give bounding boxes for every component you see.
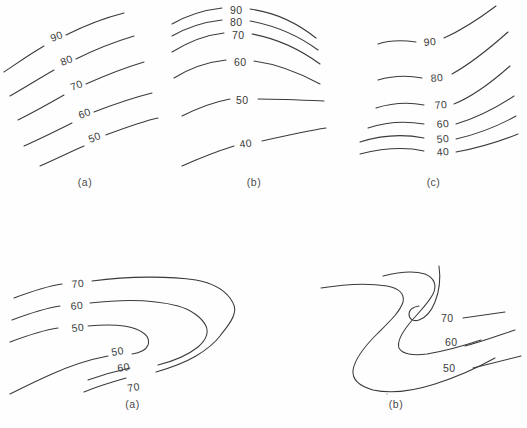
contour-line-50 — [321, 284, 495, 392]
contour-line-70 — [172, 33, 224, 52]
contour-panel-top-b: 90 80 70 60 50 40 — [168, 0, 340, 172]
contour-line-80-right — [452, 32, 508, 74]
contour-line-90-right — [66, 13, 124, 35]
contour-line-50-right — [456, 116, 516, 139]
contour-panel-bottom-a: 70 70 60 60 50 50 — [0, 246, 265, 394]
contour-line-60-right — [456, 96, 514, 124]
contour-panel-top-a: 90 80 70 60 50 — [0, 0, 170, 172]
panel-caption-bottom-a: (a) — [0, 398, 265, 410]
contour-label-80: 80 — [59, 52, 75, 68]
panel-caption-bottom-b: (b) — [265, 398, 527, 410]
contour-label-70-lower: 70 — [126, 380, 140, 394]
contour-line-70-tail — [463, 312, 505, 318]
contour-label-50: 50 — [436, 132, 449, 145]
contour-line-70 — [376, 103, 424, 108]
contour-label-70: 70 — [434, 98, 447, 111]
contour-label-90: 90 — [423, 35, 436, 48]
contour-line-40 — [360, 149, 424, 154]
contour-label-70: 70 — [232, 29, 244, 41]
contour-line-80 — [378, 76, 422, 80]
contour-line-50-right — [258, 99, 324, 101]
contour-line-90 — [172, 8, 222, 24]
contour-label-80: 80 — [230, 16, 242, 28]
contour-line-60-right — [254, 61, 320, 84]
contour-line-80-right — [76, 36, 134, 59]
contour-line-60 — [368, 122, 424, 128]
contour-label-40: 40 — [436, 145, 449, 158]
contour-label-60: 60 — [445, 336, 457, 348]
contour-label-70-upper: 70 — [71, 277, 85, 290]
contour-panel-bottom-b: 50 60 70 — [265, 246, 527, 394]
contour-label-50: 50 — [443, 362, 455, 374]
contour-label-90: 90 — [49, 28, 65, 44]
contour-line-60-tail — [465, 330, 515, 346]
contour-line-70 — [18, 95, 64, 120]
contour-label-70: 70 — [69, 77, 85, 93]
contour-line-70-right — [252, 34, 320, 64]
contour-line-90-right — [444, 6, 496, 38]
contour-line-90 — [378, 41, 416, 44]
contour-line-50 — [182, 99, 230, 116]
contour-label-60: 60 — [234, 56, 246, 68]
contour-label-60-upper: 60 — [70, 299, 84, 312]
contour-label-60: 60 — [77, 105, 93, 121]
contour-label-70: 70 — [441, 312, 453, 324]
contour-line-60-crest — [90, 301, 207, 365]
contour-line-50 — [40, 146, 84, 166]
contour-line-50-right — [106, 118, 158, 135]
contour-line-70-upper — [14, 284, 62, 298]
contour-line-40-right — [262, 128, 326, 141]
contour-label-40: 40 — [239, 136, 253, 150]
panel-caption-top-b: (b) — [168, 176, 340, 188]
panel-caption-top-c: (c) — [340, 176, 527, 188]
contour-line-60 — [24, 123, 72, 146]
contour-line-60-right — [94, 93, 152, 112]
contour-label-80: 80 — [430, 71, 443, 84]
contour-label-50-upper: 50 — [71, 321, 85, 334]
contour-label-60-lower: 60 — [116, 360, 130, 374]
contour-line-40 — [182, 146, 234, 166]
contour-label-60: 60 — [436, 117, 449, 130]
contour-panel-top-c: 90 80 70 60 50 40 — [340, 0, 527, 172]
contour-line-50-upper — [10, 328, 58, 342]
panel-caption-top-a: (a) — [0, 176, 170, 188]
figure-sheet: 90 80 70 60 50 (a) 90 — [0, 0, 527, 428]
contour-label-50: 50 — [87, 129, 103, 145]
contour-line-70-right — [86, 62, 144, 84]
contour-label-50-lower: 50 — [110, 344, 124, 358]
contour-line-70-right — [454, 66, 510, 104]
contour-line-80 — [172, 20, 222, 36]
contour-line-60 — [174, 60, 226, 78]
contour-line-50-tail — [473, 356, 521, 368]
contour-line-60-upper — [12, 306, 60, 320]
contour-line-50 — [360, 136, 424, 142]
contour-line-70-lower — [84, 378, 126, 392]
contour-label-50: 50 — [236, 94, 248, 106]
contour-line-90 — [4, 46, 44, 72]
contour-line-60-main — [383, 272, 481, 354]
contour-label-90: 90 — [230, 4, 242, 16]
contour-line-80 — [10, 70, 54, 96]
